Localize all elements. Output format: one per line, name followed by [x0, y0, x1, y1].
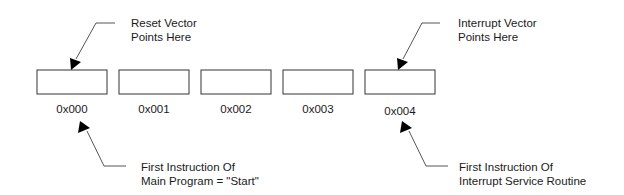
memory-cell-0x001: [119, 70, 189, 94]
address-label: 0x002: [201, 103, 271, 115]
isr-label: First Instruction Of Interrupt Service R…: [459, 160, 586, 188]
reset-vector-line2: Points Here: [131, 30, 197, 44]
memory-cell-0x003: [283, 70, 353, 94]
reset-vector-line1: Reset Vector: [131, 16, 197, 30]
interrupt-vector-line1: Interrupt Vector: [458, 16, 537, 30]
address-label: 0x001: [119, 103, 189, 115]
main-program-line2: Main Program = "Start": [141, 174, 259, 188]
reset-vector-arrow: [70, 23, 115, 70]
main-program-line1: First Instruction Of: [141, 160, 259, 174]
main-program-arrow: [78, 121, 126, 166]
isr-line2: Interrupt Service Routine: [459, 174, 586, 188]
isr-line1: First Instruction Of: [459, 160, 586, 174]
address-label: 0x003: [283, 103, 353, 115]
main-program-label: First Instruction Of Main Program = "Sta…: [141, 160, 259, 188]
isr-arrow: [400, 121, 448, 166]
reset-vector-label: Reset Vector Points Here: [131, 16, 197, 44]
memory-cell-0x000: [37, 70, 107, 94]
memory-cell-0x002: [201, 70, 271, 94]
memory-cell-0x004: [365, 70, 435, 94]
address-label: 0x000: [37, 103, 107, 115]
interrupt-vector-line2: Points Here: [458, 30, 537, 44]
address-label: 0x004: [365, 105, 435, 117]
interrupt-vector-label: Interrupt Vector Points Here: [458, 16, 537, 44]
interrupt-vector-arrow: [397, 23, 440, 70]
